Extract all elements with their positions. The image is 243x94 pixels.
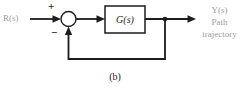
feedback-arrowhead (65, 27, 72, 36)
sum-minus-sign: − (51, 27, 57, 38)
transfer-function-label: G(s) (105, 6, 145, 33)
block-diagram: R(s) + − G(s) Y(s) Path trajectory (b) (0, 0, 243, 94)
summing-junction (61, 12, 76, 27)
output-desc-line1: Path (196, 16, 243, 28)
junction-to-block-arrowhead (97, 15, 106, 22)
figure-caption: (b) (95, 71, 135, 82)
output-signal-label: Y(s) (196, 4, 243, 16)
output-desc-line2: trajectory (196, 28, 243, 40)
output-arrowhead (188, 15, 197, 22)
output-label-group: Y(s) Path trajectory (196, 4, 243, 40)
input-arrowhead (53, 15, 62, 22)
sum-plus-sign: + (48, 1, 54, 12)
input-signal-label: R(s) (3, 12, 19, 24)
